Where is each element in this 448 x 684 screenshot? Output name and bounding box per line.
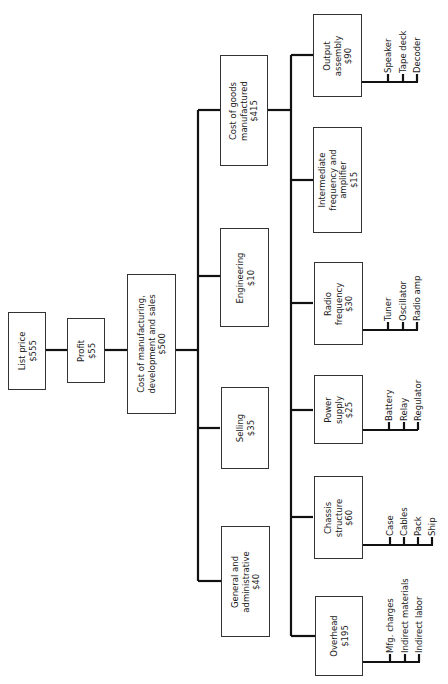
leaf-case: Case [385, 515, 395, 536]
node-label: Output [322, 35, 333, 75]
node-label: development and sales [146, 294, 157, 393]
node-selling: Selling$35 [221, 387, 269, 469]
node-value: $195 [339, 615, 350, 657]
node-value: $60 [344, 498, 355, 537]
node-value: $30 [344, 282, 355, 325]
node-cost-total: Cost of manufacturing,development and sa… [127, 274, 176, 414]
node-if-amplifier: Intermediatefrequency andamplifier$15 [313, 127, 362, 233]
leaf-tape-deck: Tape deck [398, 30, 408, 73]
node-label: structure [333, 498, 344, 537]
leaf-ship: Ship [427, 517, 437, 536]
node-value: $35 [245, 414, 256, 443]
node-label: frequency [333, 282, 344, 325]
node-profit: Profit$55 [67, 318, 105, 383]
node-label: Intermediate [317, 149, 328, 210]
leaf-regulator: Regulator [413, 380, 423, 421]
node-output-assembly: Outputassembly$90 [313, 14, 362, 97]
node-label: Cost of goods [228, 81, 239, 141]
leaf-battery: Battery [384, 390, 394, 421]
node-chassis: Chassisstructure$60 [314, 476, 363, 559]
node-value: $15 [348, 149, 359, 210]
node-label: Engineering [234, 252, 245, 303]
node-value: $55 [86, 339, 97, 361]
leaf-tuner: Tuner [383, 298, 393, 321]
leaf-speaker: Speaker [383, 38, 393, 73]
node-label: assembly [332, 35, 343, 75]
node-value: $40 [251, 551, 262, 612]
node-value: $500 [157, 294, 168, 393]
node-label: administrative [240, 551, 251, 612]
node-engineering: Engineering$10 [220, 228, 269, 327]
node-cost-of-goods: Cost of goodsmanufactured$415 [220, 55, 268, 166]
leaf-radio-amp: Radio amp [412, 276, 422, 321]
node-label: List price [17, 332, 28, 371]
node-power-supply: Powersupply$25 [314, 375, 363, 444]
node-general-admin: General andadministrative$40 [221, 526, 270, 637]
node-value: $90 [343, 35, 354, 75]
node-label: manufactured [239, 81, 250, 141]
node-overhead: Overhead$195 [315, 596, 363, 676]
leaf-oscillator: Oscillator [398, 281, 408, 321]
node-label: General and [230, 551, 241, 612]
node-radio-frequency: Radiofrequency$30 [314, 262, 363, 345]
node-value: $25 [344, 396, 355, 424]
leaf-decoder: Decoder [412, 37, 422, 73]
leaf-mfg-charges: Mfg. charges [385, 598, 395, 653]
node-label: Overhead [329, 615, 340, 657]
node-value: $415 [249, 81, 260, 141]
node-value: $10 [245, 252, 256, 303]
node-label: amplifier [338, 149, 349, 210]
leaf-indirect-labor: Indirect labor [414, 596, 424, 653]
node-label: supply [333, 396, 344, 424]
node-value: $555 [27, 332, 38, 371]
node-label: Selling [235, 414, 246, 443]
leaf-pack: Pack [413, 516, 423, 536]
node-label: Cost of manufacturing, [136, 294, 147, 393]
leaf-relay: Relay [399, 398, 409, 421]
node-label: Chassis [323, 498, 334, 537]
node-label: frequency and [327, 149, 338, 210]
leaf-indirect-materials: Indirect materials [400, 578, 410, 653]
node-label: Radio [323, 282, 334, 325]
node-label: Profit [76, 339, 87, 361]
leaf-cables: Cables [399, 507, 409, 536]
node-label: Power [323, 396, 334, 424]
node-list-price: List price$555 [8, 312, 46, 390]
